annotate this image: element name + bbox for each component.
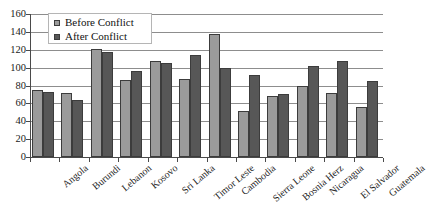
x-axis-tick-label: Kosovo: [149, 163, 179, 191]
legend-item: After Conflict: [54, 30, 151, 43]
y-axis-tick: [26, 157, 31, 158]
y-axis-tick-label: 160: [10, 9, 26, 20]
x-axis-label-sri-lanka: Sri Lanka: [180, 163, 216, 196]
x-axis-tick: [118, 158, 119, 162]
x-axis-tick: [148, 158, 149, 162]
x-axis-tick: [30, 158, 31, 162]
legend-label: Before Conflict: [65, 17, 134, 28]
y-axis-tick-label: 60: [16, 98, 27, 109]
bar-before: [238, 111, 249, 157]
legend-label: After Conflict: [65, 31, 127, 42]
bar-after: [161, 63, 172, 157]
x-axis-tick-label: Angola: [60, 163, 89, 190]
y-axis-tick: [26, 50, 31, 51]
bar-after: [367, 81, 378, 157]
bar-after: [72, 100, 83, 157]
bar-group: [177, 14, 206, 157]
bar-after: [220, 68, 231, 157]
y-axis-tick-label: 40: [16, 116, 27, 127]
bar-group: [207, 14, 236, 157]
legend-swatch-icon: [54, 34, 60, 40]
y-axis-tick: [26, 32, 31, 33]
x-axis-label-burundi: Burundi: [91, 163, 123, 192]
bar-before: [209, 34, 220, 157]
x-axis-tick-label: Burundi: [91, 163, 123, 192]
bar-after: [278, 94, 289, 157]
bar-group: [148, 14, 177, 157]
y-axis-tick-label: 20: [16, 134, 27, 145]
legend-swatch-icon: [54, 20, 60, 26]
y-axis-tick: [26, 103, 31, 104]
y-axis-tick-label: 100: [10, 63, 26, 74]
bar-before: [179, 79, 190, 157]
y-axis-labels: 020406080100120140160: [0, 0, 26, 213]
chart-legend: Before ConflictAfter Conflict: [48, 13, 152, 44]
x-axis-tick: [295, 158, 296, 162]
bar-after: [337, 61, 348, 157]
x-axis-tick-label: Sri Lanka: [180, 163, 216, 196]
x-axis-tick-label: Lebanon: [121, 163, 154, 193]
x-axis-tick: [177, 158, 178, 162]
legend-item: Before Conflict: [54, 16, 151, 29]
bar-before: [120, 80, 131, 157]
bar-before: [91, 49, 102, 157]
bar-before: [61, 93, 72, 157]
x-axis-label-kosovo: Kosovo: [149, 163, 179, 191]
x-axis-label-angola: Angola: [60, 163, 89, 190]
bar-group: [295, 14, 324, 157]
y-axis-tick: [26, 68, 31, 69]
bar-before: [356, 107, 367, 157]
x-axis-tick: [207, 158, 208, 162]
x-axis-label-lebanon: Lebanon: [121, 163, 154, 193]
bar-group: [265, 14, 294, 157]
x-axis-tick: [324, 158, 325, 162]
bar-after: [43, 92, 54, 157]
x-axis-tick: [354, 158, 355, 162]
y-axis-tick: [26, 121, 31, 122]
bar-after: [308, 66, 319, 157]
bar-after: [102, 52, 113, 157]
y-axis-tick: [26, 86, 31, 87]
bar-group: [236, 14, 265, 157]
x-axis-tick: [59, 158, 60, 162]
bar-before: [267, 96, 278, 157]
y-axis-tick: [26, 139, 31, 140]
bar-before: [150, 61, 161, 157]
bar-after: [190, 55, 201, 157]
bar-before: [297, 86, 308, 157]
y-axis-tick-label: 80: [16, 81, 27, 92]
x-axis-tick: [89, 158, 90, 162]
y-axis-tick-label: 120: [10, 45, 26, 56]
y-axis-tick-label: 140: [10, 27, 26, 38]
x-axis-tick: [383, 158, 384, 162]
bar-before: [32, 90, 43, 157]
x-axis-tick: [265, 158, 266, 162]
bar-after: [249, 75, 260, 157]
x-axis-tick: [236, 158, 237, 162]
bar-group: [354, 14, 383, 157]
bar-before: [326, 93, 337, 157]
bar-after: [131, 71, 142, 157]
y-axis-tick: [26, 14, 31, 15]
bar-group: [324, 14, 353, 157]
